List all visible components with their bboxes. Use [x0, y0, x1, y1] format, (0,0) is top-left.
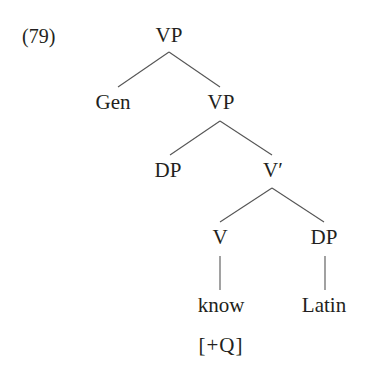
node-v: V — [212, 226, 227, 248]
edge-vp2-vbar — [220, 121, 272, 155]
node-gen: Gen — [96, 91, 131, 113]
edge-vbar-dp — [272, 188, 324, 222]
edge-vbar-v — [220, 188, 272, 222]
feature-plus-q: [+Q] — [199, 334, 244, 356]
node-vp: VP — [208, 91, 235, 113]
edge-vp-gen — [118, 52, 169, 87]
edge-vp-vp2 — [169, 52, 220, 87]
node-dp-object: DP — [311, 226, 338, 248]
example-number: (79) — [22, 25, 55, 47]
node-vp-root: VP — [156, 24, 183, 46]
edge-vp2-dp — [170, 121, 220, 155]
leaf-know: know — [198, 294, 245, 316]
leaf-latin: Latin — [302, 294, 346, 316]
tree-edges — [0, 0, 376, 384]
node-dp-spec: DP — [155, 159, 182, 181]
node-v-bar: V′ — [263, 159, 283, 181]
